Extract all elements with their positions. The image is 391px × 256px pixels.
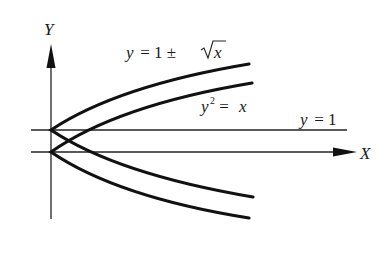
svg-text:= 1 ±: = 1 ± [136, 43, 180, 62]
svg-text:x: x [238, 97, 247, 116]
label-upper-curve: y = 1 ± x [124, 41, 226, 62]
svg-text:y: y [298, 110, 308, 129]
svg-text:x: x [213, 43, 222, 62]
svg-text:y: y [124, 43, 134, 62]
y-axis-label: Y [44, 20, 55, 39]
svg-text:= 1: = 1 [310, 110, 337, 129]
label-parabola: y 2 = x [199, 95, 247, 116]
svg-text:=: = [215, 97, 233, 116]
y-axis-arrow-icon [47, 44, 56, 68]
svg-text:y: y [199, 97, 209, 116]
x-axis-arrow-icon [333, 148, 357, 157]
x-axis-label: X [359, 144, 371, 163]
label-line-y-1: y = 1 [298, 110, 337, 129]
diagram-canvas: Y X y = 1 ± x y 2 = x y = 1 [0, 0, 391, 256]
